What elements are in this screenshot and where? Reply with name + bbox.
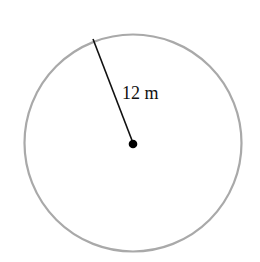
radius-label: 12 m bbox=[122, 83, 159, 103]
circle-diagram: 12 m bbox=[0, 0, 260, 262]
center-point bbox=[129, 140, 138, 149]
